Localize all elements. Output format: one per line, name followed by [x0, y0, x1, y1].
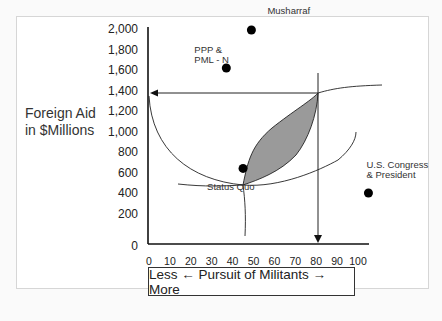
- point-label: Status Quo: [207, 182, 255, 192]
- point-label-line: PML - N: [194, 55, 228, 65]
- indifference-curve-congress: [318, 85, 382, 93]
- point-label-line: Musharraf: [267, 6, 310, 16]
- data-point-musharraf: [247, 26, 256, 35]
- data-point-u-s-congress-president: [364, 189, 373, 198]
- point-label: Musharraf: [267, 6, 310, 16]
- point-label-line: & President: [366, 170, 428, 180]
- arrowhead-left-icon: [150, 90, 158, 97]
- point-label: PPP &PML - N: [194, 45, 228, 65]
- point-label-line: Status Quo: [207, 182, 255, 192]
- indifference-curve-musharraf: [243, 185, 245, 236]
- x-axis-label: Less ← Pursuit of Militants → More: [148, 267, 355, 296]
- arrowhead-down-icon: [314, 235, 322, 243]
- point-label: U.S. Congress& President: [366, 160, 428, 180]
- data-point-status-quo: [239, 164, 248, 173]
- win-set-lens: [243, 93, 318, 185]
